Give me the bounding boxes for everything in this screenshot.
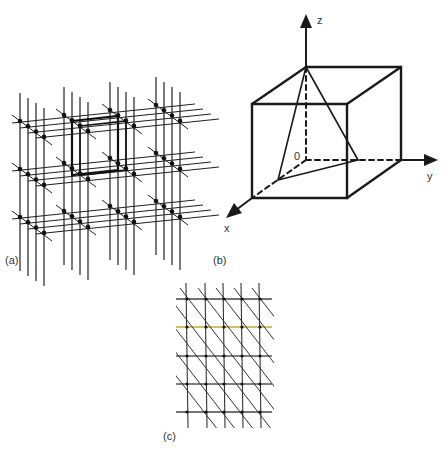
grid-node [185,410,188,413]
grid-diagonal [234,288,344,430]
lattice-node [132,220,137,225]
lattice-node [42,183,47,188]
lattice-node [170,161,175,166]
lattice-node [86,177,91,182]
x-arrow-icon [226,203,242,218]
panel-a-label: (a) [5,254,18,266]
figure-canvas: (a) z y x 0 (b) (c) [0,0,448,462]
grid-node [185,297,188,300]
lattice-node [70,214,75,219]
lattice-rail [20,205,203,224]
grid-node [240,354,243,357]
grid-node [204,325,207,328]
lattice-node [154,103,159,108]
lattice-node [170,209,175,214]
grid-diagonal [180,288,290,430]
lattice-node [162,156,167,161]
grid-node [240,297,243,300]
x-axis-label: x [224,222,230,234]
panel-c-label: (c) [163,430,176,442]
lattice-node [42,135,47,140]
lattice-rail [20,109,203,128]
lattice-rail [20,157,203,176]
lattice-node [34,225,39,230]
grid-node [240,382,243,385]
x-axis [236,198,252,210]
lattice-node [132,172,137,177]
grid-diagonal [198,288,308,430]
lattice-node [116,209,121,214]
lattice-node [86,225,91,230]
y-axis-label: y [427,170,433,182]
lattice-node [178,167,183,172]
grid-node [258,325,261,328]
grid-diagonal [108,288,218,430]
grid-diagonal [144,288,254,430]
lattice-node [34,129,39,134]
triangle-edge [306,67,358,160]
lattice-node [86,129,91,134]
lattice-node [178,215,183,220]
lattice-node [108,156,113,161]
grid-node [185,354,188,357]
grid-diagonal [252,288,362,430]
grid-node [222,297,225,300]
grid-node [258,410,261,413]
lattice-node [78,219,83,224]
grid-node [185,382,188,385]
y-arrow-icon [424,154,438,166]
panel-a-lattice [12,77,219,286]
lattice-node [162,204,167,209]
lattice-node [154,151,159,156]
lattice-node [26,124,31,129]
lattice-node [170,113,175,118]
grid-diagonal [126,288,236,430]
grid-node [222,410,225,413]
grid-node [258,382,261,385]
lattice-node [108,204,113,209]
grid-node [204,354,207,357]
cube-edge [347,160,401,198]
grid-node [258,297,261,300]
lattice-node [34,177,39,182]
panel-b-cube [226,14,438,218]
lattice-node [26,172,31,177]
lattice-node [18,119,23,124]
z-arrow-icon [300,14,312,28]
lattice-node [108,108,113,113]
grid-diagonal [216,288,326,430]
lattice-node [18,167,23,172]
origin-label: 0 [294,150,300,162]
lattice-node [178,119,183,124]
grid-diagonal [162,288,272,430]
lattice-node [132,124,137,129]
grid-node [222,325,225,328]
grid-node [222,382,225,385]
lattice-node [62,113,67,118]
panel-b-label: (b) [213,254,226,266]
lattice-node [42,231,47,236]
lattice-node [124,214,129,219]
grid-node [204,382,207,385]
lattice-node [154,199,159,204]
grid-node [204,297,207,300]
grid-node [222,354,225,357]
lattice-node [18,215,23,220]
lattice-node [62,209,67,214]
lattice-node [162,108,167,113]
grid-node [240,325,243,328]
grid-node [240,410,243,413]
lattice-node [26,220,31,225]
lattice-node [62,161,67,166]
cube-edge [347,67,401,104]
panel-c-grid [108,283,362,430]
grid-node [258,354,261,357]
grid-node [204,410,207,413]
grid-node [185,325,188,328]
z-axis-label: z [317,14,323,26]
